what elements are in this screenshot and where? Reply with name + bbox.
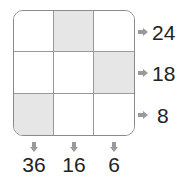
col-clue-value: 6 (108, 153, 120, 176)
row-clue-1: 18 (138, 61, 175, 85)
cell-r2-c0-shaded[interactable] (14, 94, 54, 135)
arrow-down-icon (30, 142, 38, 152)
puzzle-grid (13, 10, 135, 136)
col-clue-1: 16 (54, 142, 94, 176)
row-clue-value: 18 (152, 63, 175, 84)
row-clue-value: 24 (152, 22, 175, 43)
arrow-right-icon (138, 69, 148, 77)
cell-r0-c0[interactable] (14, 11, 54, 52)
arrow-down-icon (70, 142, 78, 152)
cell-r0-c1-shaded[interactable] (54, 11, 94, 52)
col-clue-value: 36 (22, 153, 45, 176)
col-clue-2: 6 (94, 142, 134, 176)
cell-r2-c2[interactable] (94, 94, 134, 135)
arrow-right-icon (138, 111, 148, 119)
cell-r1-c2-shaded[interactable] (94, 52, 134, 93)
cell-r2-c1[interactable] (54, 94, 94, 135)
arrow-down-icon (110, 142, 118, 152)
cell-r1-c0[interactable] (14, 52, 54, 93)
col-clue-0: 36 (14, 142, 54, 176)
cell-r0-c2[interactable] (94, 11, 134, 52)
cell-r1-c1[interactable] (54, 52, 94, 93)
row-clue-value: 8 (157, 105, 169, 126)
row-clue-0: 24 (138, 20, 175, 44)
row-clue-2: 8 (138, 103, 169, 127)
col-clue-value: 16 (62, 153, 85, 176)
arrow-right-icon (138, 28, 148, 36)
